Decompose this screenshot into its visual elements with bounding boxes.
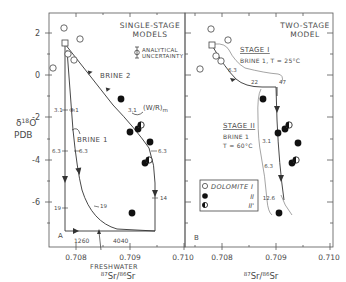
wr-value-14: 14 bbox=[160, 195, 167, 201]
wr-value-63-right: 6.3 bbox=[158, 148, 167, 154]
stage-2-sublabel-2: T = 60°C bbox=[222, 142, 253, 149]
freshwater-label: FRESHWATER bbox=[90, 263, 138, 271]
legend-filled-circle-icon bbox=[202, 193, 208, 199]
b-wr-126: 12.6 bbox=[263, 195, 276, 201]
x-tick-0708-a: 0.708 bbox=[65, 253, 87, 262]
legend-dolomite-ii: II bbox=[250, 193, 254, 201]
stage-1-sublabel: BRINE 1, T = 25°C bbox=[240, 57, 300, 64]
panel-a-dolomite-ii-points bbox=[118, 96, 154, 217]
x-axis-label-b: 87Sr/86Sr bbox=[244, 271, 279, 281]
b-wr-63: 6.3 bbox=[228, 67, 237, 73]
b-wr-22: 22 bbox=[251, 79, 258, 85]
panel-a-start-square bbox=[62, 40, 68, 46]
wr-value-31-left: 3.1 bbox=[54, 107, 63, 113]
wr-value-63-left: 6.3 bbox=[52, 148, 61, 154]
panel-a: 2 0 -2 -4 -6 0.708 0.709 0.710 87Sr/86Sr… bbox=[32, 13, 194, 281]
b-wr-47: 47 bbox=[279, 79, 286, 85]
y-tick-minus6: -6 bbox=[32, 198, 40, 207]
brine-1-label: BRINE 1 bbox=[77, 136, 108, 144]
wr-value-4040: 4040 bbox=[113, 237, 128, 244]
wr-value-1260: 1260 bbox=[74, 237, 89, 244]
y-axis-unit: PDB bbox=[14, 130, 33, 140]
uncertainty-label-line2: UNCERTAINTY bbox=[142, 53, 184, 59]
x-tick-0710-a: 0.710 bbox=[172, 253, 194, 262]
panel-a-title-line1: SINGLE-STAGE bbox=[120, 21, 180, 30]
x-tick-0710-b: 0.710 bbox=[318, 253, 340, 262]
y-tick-0: 0 bbox=[35, 71, 40, 80]
wr-value-63-mid: 6.3 bbox=[79, 148, 88, 154]
x-tick-0709-b: 0.709 bbox=[265, 253, 287, 262]
x-axis-label-a: 87Sr/86Sr bbox=[101, 271, 136, 281]
panel-b-letter: B bbox=[194, 234, 199, 242]
wr-value-19-mid: 19 bbox=[100, 203, 107, 209]
b-wr-31: 3.1 bbox=[262, 138, 271, 144]
panel-a-letter: A bbox=[58, 232, 63, 240]
wr-value-19-left: 19 bbox=[54, 205, 61, 211]
stage-2-envelope-right bbox=[281, 195, 292, 215]
x-tick-0708-b: 0.708 bbox=[211, 253, 233, 262]
panel-a-dolomite-i-points bbox=[50, 25, 83, 71]
panel-b-title-line2: MODEL bbox=[290, 30, 320, 39]
brine-2-label: BRINE 2 bbox=[100, 72, 131, 80]
wr-value-31-right: 3.1 bbox=[128, 107, 137, 113]
y-tick-2: 2 bbox=[35, 29, 40, 38]
panel-a-title-line2: MODELS bbox=[133, 30, 168, 39]
stage-2-sublabel-1: BRINE 1 bbox=[223, 133, 249, 140]
stage-2-label: STAGE II bbox=[223, 122, 255, 130]
figure-canvas: δ18O PDB 2 0 -2 -4 -6 0.708 0.709 0.710 … bbox=[0, 0, 346, 282]
wr-label: (W/R)m bbox=[143, 104, 168, 113]
y-tick-minus2: -2 bbox=[32, 113, 40, 122]
legend: DOLOMITE I II II' bbox=[200, 180, 258, 211]
y-tick-minus4: -4 bbox=[32, 156, 40, 165]
legend-dolomite-iiprime: II' bbox=[248, 202, 254, 210]
x-tick-0709-a: 0.709 bbox=[119, 253, 141, 262]
analytical-uncertainty-icon bbox=[135, 47, 140, 58]
legend-dolomite-i: DOLOMITE I bbox=[211, 183, 253, 191]
panel-b-title-line1: TWO-STAGE bbox=[279, 21, 330, 30]
panel-a-y-ticks bbox=[45, 33, 52, 223]
freshwater-arrow-icon bbox=[97, 229, 101, 234]
legend-open-circle-icon bbox=[202, 183, 207, 188]
panel-b-start-square bbox=[209, 42, 215, 48]
b-wr-63-stage2: 6.3 bbox=[264, 163, 273, 169]
panel-b: 0.708 0.709 0.710 87Sr/86Sr TWO-STAGE MO… bbox=[185, 13, 340, 281]
stage-1-label: STAGE I bbox=[240, 46, 270, 54]
